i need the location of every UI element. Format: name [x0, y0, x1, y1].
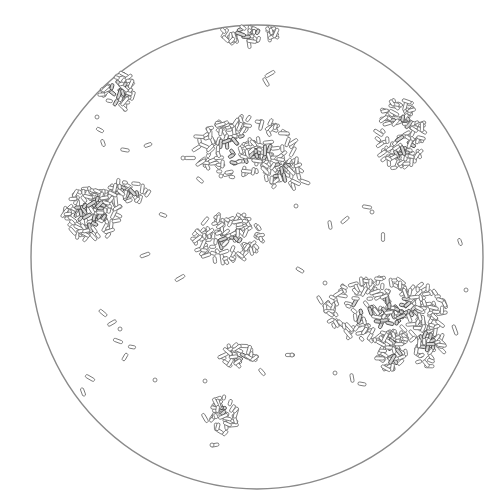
bacillus-rod: [423, 338, 426, 345]
bacillus-rod: [380, 283, 384, 290]
bacillus-rod: [175, 274, 186, 282]
microscope-field: [0, 0, 496, 501]
bacillus-rod: [406, 322, 416, 326]
bacillus-rod: [221, 160, 225, 168]
bacillus-rod: [236, 229, 239, 238]
bacillus-rod: [216, 170, 221, 173]
bacillus-rod: [358, 382, 367, 387]
bacillus-rod: [328, 220, 333, 229]
bacillus-rod: [281, 145, 284, 152]
bacillus-rod: [452, 324, 459, 335]
bacillus-rod: [426, 343, 435, 346]
coccus-dot: [181, 156, 185, 160]
bacillus-rod: [367, 297, 373, 301]
coccus-dot: [95, 115, 99, 119]
bacillus-rod: [278, 132, 289, 136]
bacillus-rod: [351, 308, 358, 315]
bacillus-rod: [194, 135, 205, 139]
bacillus-rod: [432, 310, 440, 314]
bacillus-rod: [369, 279, 373, 286]
bacillus-rod: [201, 413, 209, 423]
bacillus-rod: [82, 189, 86, 195]
bacillus-rod: [209, 245, 215, 248]
coccus-dot: [242, 213, 246, 217]
bacillus-rod: [394, 343, 403, 346]
bacillus-rod: [140, 252, 151, 258]
bacillus-rod: [106, 99, 113, 103]
bacteria-layer: [60, 24, 468, 447]
bacillus-rod: [85, 374, 95, 382]
bacillus-rod: [96, 211, 104, 215]
bacillus-rod: [381, 233, 384, 242]
bacillus-rod: [375, 357, 385, 360]
bacillus-rod: [200, 248, 207, 252]
bacillus-rod: [120, 148, 129, 153]
bacillus-rod: [457, 238, 462, 246]
bacillus-rod: [228, 153, 235, 159]
bacillus-rod: [390, 166, 397, 170]
bacillus-rod: [256, 224, 262, 231]
bacillus-rod: [132, 182, 141, 186]
bacillus-rod: [388, 303, 391, 309]
bacillus-rod: [80, 387, 86, 396]
bacillus-rod: [300, 179, 311, 186]
coccus-dot: [153, 378, 157, 382]
coccus-dot: [290, 353, 294, 357]
coccus-dot: [294, 204, 298, 208]
bacillus-rod: [122, 353, 129, 362]
bacillus-rod: [241, 169, 252, 173]
bacillus-rod: [96, 127, 104, 133]
bacillus-rod: [196, 176, 204, 184]
bacillus-rod: [408, 288, 412, 296]
coccus-dot: [464, 288, 468, 292]
bacillus-rod: [100, 139, 105, 147]
bacillus-rod: [395, 320, 399, 326]
bacillus-rod: [316, 295, 323, 305]
coccus-dot: [323, 281, 327, 285]
bacillus-rod: [440, 306, 443, 314]
coccus-dot: [203, 379, 207, 383]
bacillus-rod: [218, 128, 222, 136]
bacillus-rod: [392, 279, 398, 283]
bacillus-rod: [64, 212, 72, 216]
bacillus-rod: [420, 122, 423, 132]
bacillus-rod: [340, 216, 349, 225]
bacillus-rod: [69, 197, 77, 201]
bacillus-rod: [379, 349, 387, 353]
bacillus-rod: [362, 205, 372, 210]
bacillus-rod: [422, 292, 430, 296]
bacillus-rod: [201, 216, 210, 226]
bacillus-rod: [222, 395, 226, 401]
bacillus-rod: [110, 83, 115, 90]
bacillus-rod: [369, 327, 375, 335]
bacillus-rod: [214, 238, 218, 245]
bacillus-rod: [385, 137, 389, 144]
bacillus-rod: [277, 157, 285, 161]
bacillus-rod: [128, 345, 136, 349]
bacillus-rod: [436, 297, 444, 302]
bacillus-rod: [113, 338, 123, 344]
bacillus-rod: [417, 338, 421, 347]
bacillus-rod: [270, 176, 274, 184]
bacillus-rod: [159, 212, 167, 218]
bacillus-rod: [258, 368, 266, 376]
bacillus-rod: [385, 321, 394, 326]
bacillus-rod: [228, 399, 233, 406]
bacillus-rod: [144, 142, 153, 148]
bacillus-rod: [398, 281, 401, 289]
bacillus-rod: [409, 336, 417, 343]
coccus-dot: [333, 371, 337, 375]
bacillus-rod: [98, 93, 105, 97]
bacillus-rod: [122, 180, 128, 184]
coccus-dot: [210, 443, 214, 447]
bacillus-rod: [374, 277, 383, 281]
coccus-dot: [370, 210, 374, 214]
bacillus-rod: [262, 77, 269, 87]
bacillus-rod: [220, 27, 227, 34]
bacillus-rod: [375, 136, 382, 142]
coccus-dot: [219, 174, 223, 178]
bacillus-rod: [403, 162, 410, 166]
bacillus-rod: [353, 313, 357, 321]
bacillus-rod: [263, 140, 274, 144]
bacillus-rod: [265, 70, 276, 78]
